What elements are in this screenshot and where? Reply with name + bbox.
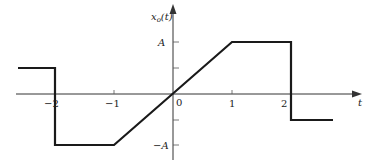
x-tick-label: 1: [229, 98, 235, 109]
x-axis-label: t: [358, 97, 363, 108]
x-tick-label: −1: [105, 98, 120, 109]
y-tick-label-a: A: [157, 37, 165, 48]
x-tick-label: −2: [44, 98, 59, 109]
odd-part-signal-diagram: −2 −1 0 1 2 A −A xo(t) t: [0, 0, 378, 165]
x-tick-label: 0: [176, 97, 182, 108]
x-tick-label: 2: [281, 98, 287, 109]
y-axis-label: xo(t): [151, 11, 173, 24]
y-tick-label-neg-a: −A: [153, 140, 169, 151]
